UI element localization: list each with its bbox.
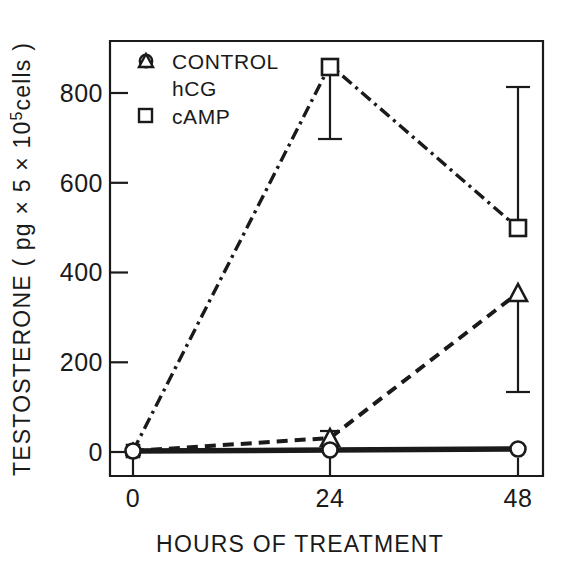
series-hcg bbox=[127, 284, 530, 455]
chart-figure: 0 200 400 600 800 0 24 48 bbox=[0, 0, 572, 576]
legend-label-control: CONTROL bbox=[172, 50, 279, 73]
x-axis-ticks bbox=[133, 458, 518, 476]
y-tick-label-0: 0 bbox=[89, 438, 103, 466]
svg-text:TESTOSTERONE ( pg × 5 × 105cel: TESTOSTERONE ( pg × 5 × 105cells ) bbox=[8, 42, 35, 476]
y-axis-title-main: TESTOSTERONE ( pg bbox=[9, 215, 35, 476]
y-tick-label-800: 800 bbox=[60, 79, 103, 107]
series-control bbox=[126, 442, 526, 459]
hcg-errorbar-48 bbox=[506, 294, 530, 392]
y-axis-title-base: 10 bbox=[9, 121, 35, 157]
y-axis-tick-labels: 0 200 400 600 800 bbox=[60, 79, 103, 466]
x-tick-label-0: 0 bbox=[126, 484, 140, 512]
camp-errorbar-48 bbox=[506, 87, 530, 226]
y-tick-label-200: 200 bbox=[60, 348, 103, 376]
y-axis-title: TESTOSTERONE ( pg × 5 × 105cells ) bbox=[8, 42, 35, 476]
y-axis-title-times2: × bbox=[9, 156, 35, 171]
testosterone-line-chart: 0 200 400 600 800 0 24 48 bbox=[0, 0, 572, 576]
x-tick-label-24: 24 bbox=[316, 484, 345, 512]
camp-marker-24h bbox=[322, 59, 338, 75]
legend-label-camp: cAMP bbox=[172, 105, 230, 128]
chart-legend: CONTROL hCG cAMP bbox=[139, 50, 279, 128]
x-axis-title: HOURS OF TREATMENT bbox=[156, 531, 444, 557]
x-axis-tick-labels: 0 24 48 bbox=[126, 484, 533, 512]
hcg-line bbox=[133, 293, 518, 451]
x-tick-label-48: 48 bbox=[504, 484, 533, 512]
camp-marker-48h bbox=[510, 220, 526, 236]
y-axis-ticks bbox=[110, 93, 128, 452]
y-axis-title-exponent: 5 bbox=[8, 110, 25, 120]
control-marker-0h bbox=[126, 444, 141, 459]
y-axis-title-tail: cells ) bbox=[9, 42, 35, 110]
y-tick-label-600: 600 bbox=[60, 169, 103, 197]
y-tick-label-400: 400 bbox=[60, 258, 103, 286]
control-marker-24h bbox=[323, 443, 338, 458]
legend-square-icon bbox=[139, 109, 152, 122]
control-marker-48h bbox=[511, 442, 526, 457]
y-axis-title-mid: 5 bbox=[9, 171, 35, 200]
legend-label-hcg: hCG bbox=[172, 77, 217, 100]
y-axis-title-times1: × bbox=[9, 200, 35, 215]
hcg-marker-48h bbox=[509, 284, 527, 301]
